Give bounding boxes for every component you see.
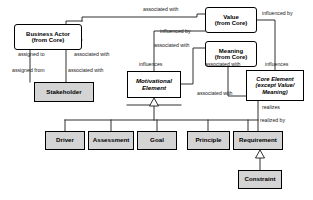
node-assessment-label: Assessment xyxy=(93,137,129,144)
node-assessment[interactable]: Assessment xyxy=(88,131,134,150)
node-requirement[interactable]: Requirement xyxy=(233,131,283,150)
edge-label-influences-2: influences xyxy=(265,62,288,67)
edge-label-assigned-to: assigned to xyxy=(18,52,45,57)
node-driver-label: Driver xyxy=(56,137,74,144)
edge-label-realizes: realizes xyxy=(262,105,280,110)
edge-label-associated-with-2: associated with xyxy=(68,68,103,73)
edge-label-associated-with-6: associated with xyxy=(197,91,232,96)
node-core-element-line-1: (except Value/ xyxy=(256,82,295,88)
edge-stakeholder-value-top2 xyxy=(82,14,205,21)
node-goal[interactable]: Goal xyxy=(137,131,177,150)
node-constraint[interactable]: Constraint xyxy=(238,170,282,189)
edge-label-associated-with-4: associated with xyxy=(154,43,189,48)
node-stakeholder[interactable]: Stakeholder xyxy=(34,82,94,102)
edge-label-associated-with-5: associated with xyxy=(205,62,240,67)
node-core-element-line-2: Meaning) xyxy=(256,89,295,95)
node-principle[interactable]: Principle xyxy=(187,131,230,150)
node-meaning-line-1: (from Core) xyxy=(215,54,248,60)
edge-motivational-meaning xyxy=(181,48,205,84)
edge-label-influences-1: influences xyxy=(139,62,162,67)
edge-label-influenced-by-1: influenced by xyxy=(160,29,191,34)
node-business-actor-line-1: (from Core) xyxy=(26,37,70,43)
edge-label-associated-with-1: associated with xyxy=(74,52,109,57)
edge-label-associated-with-3: associated with xyxy=(143,7,178,12)
edge-label-influenced-by-2: influenced by xyxy=(262,11,293,16)
node-value[interactable]: Value (from Core) xyxy=(205,7,257,33)
node-stakeholder-label: Stakeholder xyxy=(46,89,81,96)
node-constraint-label: Constraint xyxy=(245,176,276,183)
node-core-element[interactable]: Core Element (except Value/ Meaning) xyxy=(246,70,304,101)
node-motivational-element-line-1: Element xyxy=(136,85,172,92)
node-value-line-1: (from Core) xyxy=(215,20,248,26)
node-requirement-label: Requirement xyxy=(239,137,277,144)
node-driver[interactable]: Driver xyxy=(45,131,85,150)
node-principle-label: Principle xyxy=(195,137,221,144)
node-motivational-element[interactable]: Motivational Element xyxy=(127,71,181,98)
generalization-arrow-motivational xyxy=(150,98,159,106)
diagram-canvas: Business Actor (from Core) Stakeholder V… xyxy=(0,0,313,200)
edge-label-realized-by: realized by xyxy=(260,118,285,123)
edge-label-assigned-from: assigned from xyxy=(12,68,45,73)
node-goal-label: Goal xyxy=(150,137,164,144)
generalization-arrow-requirement xyxy=(256,150,265,158)
node-business-actor[interactable]: Business Actor (from Core) xyxy=(14,24,82,50)
